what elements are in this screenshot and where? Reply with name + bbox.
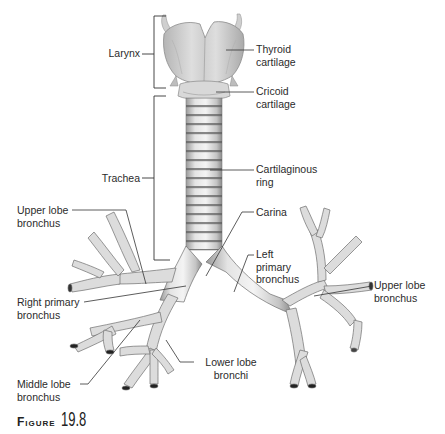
label-upper-lobe-bronchus-left: Upper lobe bronchus bbox=[374, 279, 425, 304]
figure-caption-word: Figure bbox=[17, 415, 56, 429]
label-thyroid-cartilage: Thyroid cartilage bbox=[256, 43, 296, 68]
label-left-primary-bronchus: Left primary bronchus bbox=[256, 248, 299, 286]
label-cricoid-cartilage: Cricoid cartilage bbox=[256, 85, 296, 110]
label-right-primary-bronchus: Right primary bronchus bbox=[17, 296, 79, 321]
label-trachea: Trachea bbox=[82, 172, 140, 185]
label-upper-lobe-bronchus-right: Upper lobe bronchus bbox=[17, 204, 68, 229]
cricoid-cartilage-shape bbox=[178, 81, 230, 100]
label-cartilaginous-ring: Cartilaginous ring bbox=[256, 163, 317, 188]
larynx bbox=[162, 14, 244, 100]
label-middle-lobe-bronchus: Middle lobe bronchus bbox=[17, 378, 71, 403]
label-larynx: Larynx bbox=[88, 47, 140, 60]
figure-caption-number: 19.8 bbox=[61, 407, 86, 431]
label-lower-lobe-bronchi: Lower lobe bronchi bbox=[196, 356, 266, 381]
label-carina: Carina bbox=[256, 206, 287, 219]
trachea-bracket bbox=[154, 96, 170, 260]
lower-lobe-leader bbox=[166, 340, 194, 362]
trachea bbox=[186, 98, 222, 250]
figure-caption: Figure 19.8 bbox=[17, 407, 102, 431]
thyroid-cartilage-shape bbox=[164, 22, 244, 84]
